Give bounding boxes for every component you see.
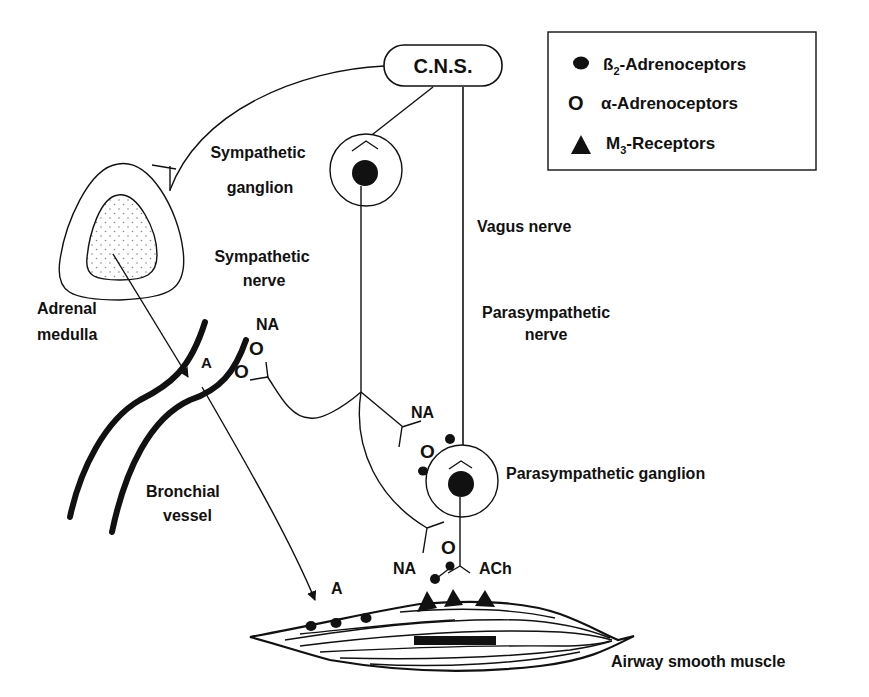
ganglion-beta2-receptor-icon xyxy=(445,434,455,444)
bronchial-vessel-label-2: vessel xyxy=(163,507,212,524)
ganglion-cell-body-icon xyxy=(352,160,378,186)
muscle-na-label: NA xyxy=(393,560,417,577)
m3-receptor-icon-2 xyxy=(444,589,463,607)
ganglion-alpha-receptor-icon: O xyxy=(420,441,435,462)
beta2-adrenoceptor-icon xyxy=(573,57,589,70)
legend: ß2-Adrenoceptors O α-Adrenoceptors M3-Re… xyxy=(548,32,816,170)
sympathetic-nerve-label-1: Sympathetic xyxy=(214,248,309,265)
cns-label: C.N.S. xyxy=(414,55,473,77)
cns-node: C.N.S. xyxy=(384,45,502,86)
vessel-synapse-icon xyxy=(250,362,268,380)
adrenal-medulla xyxy=(59,164,184,300)
bronchial-vessel-label-1: Bronchial xyxy=(146,483,220,500)
adrenal-medulla-label-2: medulla xyxy=(37,326,98,343)
vessel-alpha-receptor-icon-2: O xyxy=(234,361,249,382)
sympathetic-ganglion-branch xyxy=(361,392,403,427)
muscle-nucleus-icon xyxy=(414,636,496,645)
airway-smooth-muscle-label: Airway smooth muscle xyxy=(611,653,785,670)
muscle-beta2-receptor-icon-na xyxy=(430,574,440,584)
presynaptic-beta2-receptor-icon xyxy=(446,562,455,571)
muscle-alpha-receptor-icon: O xyxy=(441,537,456,558)
sympathetic-nerve-label-2: nerve xyxy=(243,272,286,289)
sympathetic-vessel-branch xyxy=(267,376,361,418)
ganglion-beta2-receptor-icon-2 xyxy=(418,467,428,476)
vessel-na-label: NA xyxy=(256,316,280,333)
autonomic-diagram: ß2-Adrenoceptors O α-Adrenoceptors M3-Re… xyxy=(0,0,869,697)
parasympathetic-nerve-label-2: nerve xyxy=(525,326,568,343)
legend-alpha-label: α-Adrenoceptors xyxy=(601,94,738,113)
muscle-a-label: A xyxy=(331,580,343,597)
parasympathetic-ganglion-label: Parasympathetic ganglion xyxy=(506,465,705,482)
legend-beta2-label: ß2-Adrenoceptors xyxy=(603,55,746,77)
ganglion-na-synapse-icon xyxy=(399,421,421,447)
muscle-beta2-receptor-icon-3 xyxy=(361,613,372,623)
parasympathetic-nerve-label-1: Parasympathetic xyxy=(482,304,610,321)
adrenal-medulla-label-1: Adrenal xyxy=(37,300,97,317)
muscle-beta2-receptor-icon-2 xyxy=(331,618,342,628)
muscle-beta2-receptor-icon-1 xyxy=(306,621,317,631)
sympathetic-ganglion-label-1: Sympathetic xyxy=(210,144,305,161)
parasympathetic-ganglion xyxy=(426,445,498,517)
airway-smooth-muscle xyxy=(250,589,634,671)
vessel-a-label: A xyxy=(201,354,212,371)
ganglion-na-label: NA xyxy=(411,404,435,421)
sympathetic-ganglion xyxy=(330,134,402,206)
sympathetic-ganglion-label-2: ganglion xyxy=(227,179,294,196)
para-ganglion-cell-body-icon xyxy=(448,471,474,497)
cns-to-sympathetic-ganglion-nerve xyxy=(368,87,433,138)
m3-receptor-icon-3 xyxy=(475,590,495,607)
ach-label: ACh xyxy=(479,560,512,577)
alpha-adrenoceptor-icon: O xyxy=(568,92,584,114)
vagus-nerve-label: Vagus nerve xyxy=(477,218,571,235)
vessel-alpha-receptor-icon-1: O xyxy=(249,338,264,359)
bronchial-vessel xyxy=(70,322,246,532)
